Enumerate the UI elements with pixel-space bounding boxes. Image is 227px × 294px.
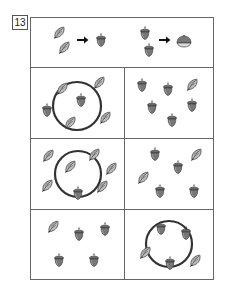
chestnut-icon [176, 34, 192, 48]
leaf-icon [96, 180, 109, 193]
acorn-icon [149, 147, 161, 161]
acorn-icon [172, 160, 184, 174]
acorn-icon [72, 186, 84, 200]
header-divider [30, 67, 214, 68]
leaf-icon [137, 171, 150, 184]
acorn-icon [73, 227, 85, 241]
acorn-icon [139, 26, 151, 40]
acorn-icon [166, 113, 178, 127]
acorn-icon [146, 100, 158, 114]
leaf-icon [64, 160, 77, 173]
leaf-icon [139, 246, 152, 259]
acorn-icon [75, 93, 87, 107]
row-divider-1 [30, 138, 214, 139]
leaf-icon [64, 116, 77, 129]
arrow-right-icon [77, 36, 89, 44]
leaf-icon [190, 148, 203, 161]
acorn-icon [88, 253, 100, 267]
leaf-icon [189, 254, 202, 267]
leaf-icon [88, 148, 101, 161]
leaf-icon [105, 162, 118, 175]
leaf-icon [42, 149, 55, 162]
leaf-icon [41, 179, 54, 192]
leaf-icon [93, 76, 106, 89]
acorn-icon [188, 184, 200, 198]
acorn-icon [143, 43, 155, 57]
acorn-icon [136, 78, 148, 92]
leaf-icon [47, 220, 60, 233]
acorn-icon [154, 184, 166, 198]
acorn-icon [155, 221, 167, 235]
acorn-icon [162, 82, 174, 96]
acorn-icon [95, 33, 107, 47]
leaf-icon [58, 41, 71, 54]
acorn-icon [180, 226, 192, 240]
acorn-icon [41, 103, 53, 117]
acorn-icon [53, 253, 65, 267]
leaf-icon [53, 26, 66, 39]
leaf-icon [99, 111, 112, 124]
arrow-right-icon [159, 36, 171, 44]
acorn-icon [186, 98, 198, 112]
column-divider [124, 67, 125, 280]
leaf-icon [186, 78, 199, 91]
problem-number: 13 [12, 15, 28, 30]
acorn-icon [164, 256, 176, 270]
acorn-icon [99, 222, 111, 236]
leaf-icon [56, 82, 69, 95]
row-divider-2 [30, 209, 214, 210]
